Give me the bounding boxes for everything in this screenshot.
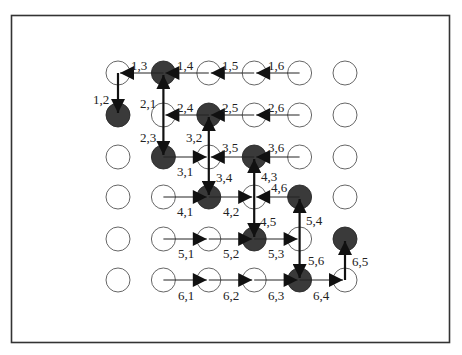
edge-label-2-3: 2,3 [140, 130, 156, 145]
edge-label-3-4: 3,4 [216, 170, 233, 185]
edge-label-3-6: 3,6 [268, 140, 285, 155]
empty-node-4-6 [333, 185, 357, 209]
empty-node-4-1 [106, 185, 130, 209]
edge-label-4-1: 4,1 [177, 204, 193, 219]
edge-label-6-2: 6,2 [223, 288, 239, 303]
edge-label-3-2: 3,2 [186, 130, 202, 145]
edge-label-5-2: 5,2 [223, 246, 239, 261]
empty-node-3-6 [333, 145, 357, 169]
edge-label-5-4: 5,4 [306, 213, 323, 228]
edge-label-2-6: 2,6 [268, 100, 285, 115]
empty-node-5-1 [106, 227, 130, 251]
edge-label-4-5: 4,5 [260, 214, 276, 229]
edge-label-6-1: 6,1 [178, 288, 194, 303]
edge-label-2-4: 2,4 [177, 100, 194, 115]
edge-label-3-5: 3,5 [222, 140, 238, 155]
edge-labels: 1,21,31,41,51,62,12,32,42,52,63,13,23,43… [93, 58, 368, 303]
edge-label-1-5: 1,5 [222, 58, 238, 73]
edge-label-1-4: 1,4 [177, 58, 194, 73]
edge-label-3-1: 3,1 [177, 164, 193, 179]
edge-label-5-6: 5,6 [308, 253, 325, 268]
edge-label-1-3: 1,3 [131, 58, 147, 73]
empty-node-2-6 [333, 103, 357, 127]
edge-label-6-4: 6,4 [313, 288, 330, 303]
empty-node-1-6 [333, 61, 357, 85]
grid-diagram: 1,21,31,41,51,62,12,32,42,52,63,13,23,43… [0, 0, 462, 355]
edge-label-2-1: 2,1 [140, 96, 156, 111]
empty-node-3-1 [106, 145, 130, 169]
edge-label-2-5: 2,5 [222, 100, 238, 115]
edge-label-1-2: 1,2 [93, 92, 109, 107]
empty-node-6-1 [106, 268, 130, 292]
edge-label-1-6: 1,6 [268, 58, 285, 73]
edge-label-6-5: 6,5 [352, 254, 368, 269]
edge-label-4-2: 4,2 [223, 204, 239, 219]
edge-label-5-3: 5,3 [268, 246, 284, 261]
edge-label-4-6: 4,6 [271, 180, 288, 195]
edge-label-5-1: 5,1 [178, 246, 194, 261]
edge-label-6-3: 6,3 [268, 288, 284, 303]
